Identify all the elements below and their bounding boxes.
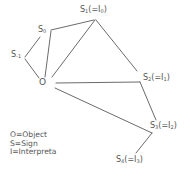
edge-o-s3 <box>55 88 152 133</box>
node-s4: S4(=I3) <box>116 155 143 166</box>
node-s2: S2(=I1) <box>143 73 170 84</box>
edge-sminus1-s0 <box>25 37 40 57</box>
node-s1: S1(=I0) <box>80 5 107 16</box>
edge-s0-o <box>45 31 51 77</box>
node-s-minus1: S-1 <box>11 50 21 61</box>
node-s3: S3(=I2) <box>150 121 177 132</box>
node-object: O <box>39 78 46 87</box>
node-s0: S0 <box>38 25 46 36</box>
edge-s2-s3 <box>140 82 156 120</box>
edge-sminus1-o <box>25 59 39 78</box>
edge-o-s2 <box>56 82 140 83</box>
edge-s0-s1 <box>51 20 94 30</box>
edge-s1-s2 <box>96 20 137 71</box>
legend-item-interpretant: I=Interpreta <box>10 148 57 157</box>
legend: O=Object S=Sign I=Interpreta <box>10 131 57 157</box>
edge-s3-s4 <box>136 133 152 153</box>
